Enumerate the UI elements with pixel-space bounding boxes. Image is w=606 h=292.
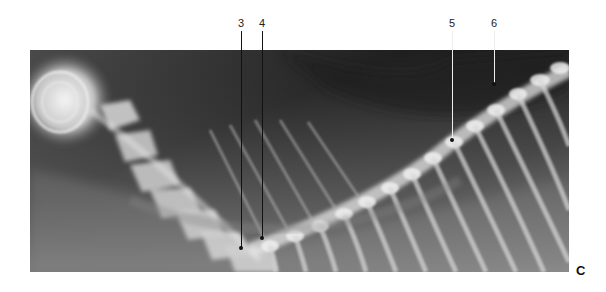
panel-label: C bbox=[576, 263, 585, 278]
annotation-point-5 bbox=[450, 138, 454, 142]
annotation-leader-6 bbox=[494, 31, 495, 84]
annotation-leader-5 bbox=[452, 31, 453, 140]
xray-graphic bbox=[30, 50, 569, 272]
annotation-label-3: 3 bbox=[235, 18, 247, 29]
xray-image bbox=[30, 50, 569, 272]
annotation-label-5: 5 bbox=[446, 18, 458, 29]
annotation-label-6: 6 bbox=[488, 18, 500, 29]
annotation-point-6 bbox=[492, 82, 496, 86]
annotation-leader-3 bbox=[241, 31, 242, 248]
radiograph-figure: 3 4 5 6 C bbox=[0, 0, 606, 292]
annotation-label-4: 4 bbox=[256, 18, 268, 29]
annotation-point-3 bbox=[239, 246, 243, 250]
annotation-point-4 bbox=[260, 236, 264, 240]
annotation-leader-4 bbox=[262, 31, 263, 238]
